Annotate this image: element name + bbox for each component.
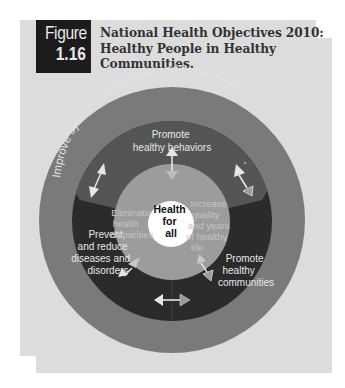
health-objectives-diagram: Improve systems for personal and public … [0, 0, 345, 388]
dot-mark [244, 162, 246, 164]
